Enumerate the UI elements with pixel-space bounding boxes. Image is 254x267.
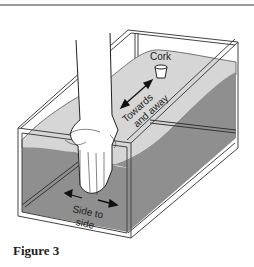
cork-icon <box>155 65 167 78</box>
cork-label: Cork <box>150 51 172 62</box>
figure-caption: Figure 3 <box>13 243 59 259</box>
wave-tank-diagram: Cork Towards and away Side to side <box>0 0 254 267</box>
